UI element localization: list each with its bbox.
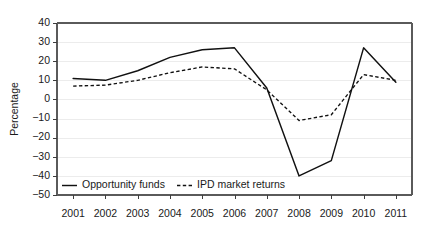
y-tick-label--50: −50	[32, 188, 50, 200]
x-tick-label-2004: 2004	[158, 207, 182, 219]
x-tick-label-2002: 2002	[94, 207, 118, 219]
y-tick-label-40: 40	[38, 16, 50, 28]
y-tick-label--20: −20	[32, 130, 50, 142]
x-tick-label-2001: 2001	[61, 207, 85, 219]
x-tick-label-2005: 2005	[191, 207, 215, 219]
y-tick-label-0: 0	[44, 92, 50, 104]
y-tick-label-20: 20	[38, 54, 50, 66]
legend-label-opportunity-funds: Opportunity funds	[82, 178, 165, 190]
x-tick-label-2011: 2011	[385, 207, 408, 219]
x-tick-label-2007: 2007	[255, 207, 279, 219]
y-tick-label--30: −30	[32, 150, 50, 162]
legend-label-ipd-market-returns: IPD market returns	[197, 178, 285, 190]
chart-figure: 403020100−10−20−30−40−50 200120022003200…	[0, 0, 428, 226]
x-tick-label-2009: 2009	[320, 207, 344, 219]
line-chart: 403020100−10−20−30−40−50 200120022003200…	[0, 0, 428, 226]
x-tick-label-2003: 2003	[126, 207, 150, 219]
y-tick-label--10: −10	[32, 111, 50, 123]
y-tick-label-30: 30	[38, 35, 50, 47]
x-tick-label-2006: 2006	[223, 207, 247, 219]
y-axis-title-group: Percentage	[8, 82, 20, 136]
y-tick-label--40: −40	[32, 169, 50, 181]
x-tick-label-2010: 2010	[352, 207, 376, 219]
y-tick-label-10: 10	[38, 73, 50, 85]
y-axis-title: Percentage	[8, 82, 20, 136]
x-tick-label-2008: 2008	[287, 207, 311, 219]
chart-background	[0, 0, 428, 226]
